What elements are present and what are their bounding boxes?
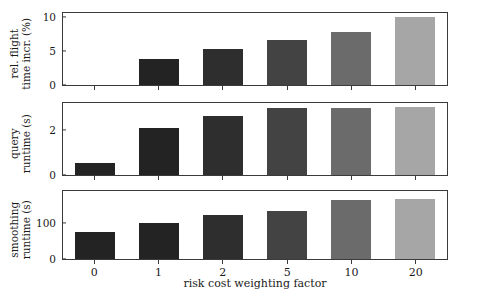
x-axis-tick-mark [94,260,95,264]
x-axis-tick-label: 1 [155,266,162,279]
bars-rel-flight-time-incr [63,13,447,85]
bar [331,32,371,85]
y-axis-tick-label: 0 [49,80,56,91]
y-axis-tick-mark [62,50,66,51]
x-axis-tick-mark [158,176,159,180]
panel-query-runtime [62,102,448,176]
y-axis-tick-mark [62,84,66,85]
panel-rel-flight-time-incr [62,12,448,86]
x-axis-tick-mark [415,86,416,90]
x-axis-tick-label: 5 [284,266,291,279]
bar [203,215,243,259]
bars-query-runtime [63,103,447,175]
x-axis-tick-mark [351,176,352,180]
panel-smoothing-runtime [62,190,448,260]
y-axis-tick-label: 100 [36,218,56,229]
y-axis-tick-mark [62,17,66,18]
y-axis-tick-mark [62,258,66,259]
y-axis-tick-label: 0 [49,254,56,265]
bar [203,49,243,85]
x-axis-tick-mark [94,176,95,180]
bar [203,116,243,175]
bar [395,199,435,259]
y-axis-tick-label: 5 [49,46,56,57]
y-axis-tick-label: 0 [49,170,56,181]
bar [395,17,435,85]
y-axis-tick-label: 10 [43,12,56,23]
y-axis-tick-mark [62,129,66,130]
bar [139,223,179,259]
bar [331,108,371,175]
bar [139,59,179,85]
bar [267,108,307,175]
x-axis-tick-mark [158,260,159,264]
x-axis-tick-mark [222,176,223,180]
y-axis-ticks-mid: 02 [12,102,56,176]
x-axis-tick-mark [222,86,223,90]
y-axis-tick-mark [62,223,66,224]
bar [267,40,307,85]
y-axis-ticks-bottom: 0100 [12,190,56,260]
x-axis-tick-label: 2 [219,266,226,279]
bar [139,128,179,175]
x-axis-tick-mark [351,86,352,90]
x-axis-tick-mark [94,86,95,90]
x-axis-tick-label: 0 [91,266,98,279]
x-axis-title: risk cost weighting factor [62,277,448,290]
y-axis-tick-label: 2 [49,125,56,136]
bar [75,232,115,259]
x-axis-tick-mark [287,176,288,180]
x-axis-tick-mark [415,176,416,180]
bar-chart-figure: rel. flight time incr. (%) 0510 query ru… [0,0,479,300]
bar [395,107,435,175]
x-axis-tick-mark [287,260,288,264]
bars-smoothing-runtime [63,191,447,259]
y-axis-tick-mark [62,174,66,175]
x-axis-tick-mark [351,260,352,264]
x-axis-tick-label: 10 [345,266,359,279]
x-axis-tick-mark [222,260,223,264]
x-axis-tick-mark [415,260,416,264]
bar [331,200,371,259]
x-axis-tick-mark [287,86,288,90]
y-axis-ticks-top: 0510 [12,12,56,86]
x-axis-tick-mark [158,86,159,90]
x-axis-tick-label: 20 [409,266,423,279]
bar [267,211,307,259]
bar [75,163,115,175]
